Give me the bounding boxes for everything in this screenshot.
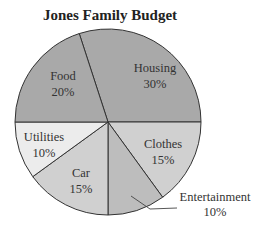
slice-label-clothes: Clothes xyxy=(144,137,182,151)
slice-value-clothes: 15% xyxy=(152,153,175,167)
slice-label-food: Food xyxy=(50,69,76,83)
slice-label-utilities: Utilities xyxy=(24,130,64,144)
slice-value-housing: 30% xyxy=(144,77,167,91)
slice-label-car: Car xyxy=(72,166,91,180)
pie-slices xyxy=(15,29,201,215)
slice-value-car: 15% xyxy=(70,182,93,196)
slice-value-food: 20% xyxy=(52,85,75,99)
slice-value-entertainment: 10% xyxy=(204,205,227,219)
slice-label-entertainment: Entertainment xyxy=(180,190,251,204)
slice-value-utilities: 10% xyxy=(33,146,56,160)
pie-chart: Housing 30% Food 20% Utilities 10% Car 1… xyxy=(0,0,260,235)
slice-label-housing: Housing xyxy=(134,61,177,75)
